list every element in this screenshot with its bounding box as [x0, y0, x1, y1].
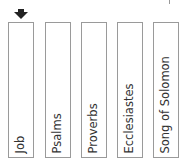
book-spine-ecclesiastes[interactable]: Ecclesiastes [117, 22, 143, 158]
book-label: Proverbs [88, 103, 100, 153]
book-label: Psalms [52, 113, 64, 153]
book-spine-proverbs[interactable]: Proverbs [81, 22, 107, 158]
book-spine-psalms[interactable]: Psalms [45, 22, 71, 158]
book-label: Song of Solomon [160, 56, 172, 153]
arrow-down-icon [14, 9, 28, 19]
edge-tick [169, 0, 170, 4]
book-spine-song-of-solomon[interactable]: Song of Solomon [153, 22, 179, 158]
book-spine-job[interactable]: Job [8, 22, 34, 158]
book-label: Job [15, 135, 27, 153]
book-label: Ecclesiastes [124, 83, 136, 153]
